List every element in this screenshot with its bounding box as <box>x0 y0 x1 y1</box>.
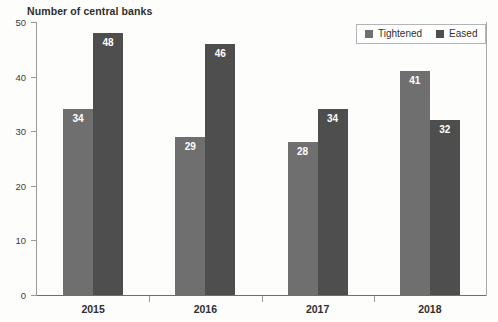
bar-value-label: 29 <box>175 141 205 152</box>
bar-value-label: 34 <box>318 113 348 124</box>
y-axis-tick <box>31 186 37 187</box>
legend-swatch-icon <box>365 30 373 38</box>
bar-value-label: 46 <box>205 48 235 59</box>
bar-value-label: 28 <box>288 146 318 157</box>
y-axis-tick <box>31 131 37 132</box>
x-axis-tick <box>374 296 375 302</box>
x-axis-tick <box>149 296 150 302</box>
bar-value-label: 34 <box>63 113 93 124</box>
bars-layer: 3448294628344132 <box>37 22 486 295</box>
legend-swatch-icon <box>436 30 444 38</box>
y-axis-label: 20 <box>15 180 26 191</box>
bar-eased-2018[interactable]: 32 <box>430 120 460 295</box>
y-axis-label: 10 <box>15 235 26 246</box>
bar-value-label: 32 <box>430 124 460 135</box>
x-axis-label-2016: 2016 <box>194 303 217 315</box>
y-axis-label: 0 <box>21 290 26 301</box>
y-axis-tick <box>31 240 37 241</box>
y-axis-tick <box>31 77 37 78</box>
bar-tightened-2015[interactable]: 34 <box>63 109 93 295</box>
x-axis-tick <box>262 296 263 302</box>
page-title: Number of central banks <box>27 5 152 17</box>
legend-label: Tightened <box>378 28 422 39</box>
y-axis-tick <box>31 22 37 23</box>
legend-entry-tightened[interactable]: Tightened <box>365 28 422 39</box>
chart-page: Number of central banks 3448294628344132… <box>0 0 498 322</box>
legend-entry-eased[interactable]: Eased <box>436 28 477 39</box>
bar-value-label: 41 <box>400 75 430 86</box>
y-axis-label: 40 <box>15 71 26 82</box>
bar-tightened-2017[interactable]: 28 <box>288 142 318 295</box>
bar-eased-2015[interactable]: 48 <box>93 33 123 295</box>
bar-tightened-2016[interactable]: 29 <box>175 137 205 295</box>
y-axis-label: 30 <box>15 126 26 137</box>
x-axis-label-2015: 2015 <box>81 303 104 315</box>
plot-right-border <box>486 22 487 296</box>
chart-legend: TightenedEased <box>356 24 486 44</box>
x-axis-label-2018: 2018 <box>418 303 441 315</box>
bar-tightened-2018[interactable]: 41 <box>400 71 430 295</box>
bar-eased-2016[interactable]: 46 <box>205 44 235 295</box>
x-axis-label-2017: 2017 <box>306 303 329 315</box>
y-axis-label: 50 <box>15 17 26 28</box>
bar-value-label: 48 <box>93 37 123 48</box>
legend-label: Eased <box>449 28 477 39</box>
y-axis-tick <box>31 295 37 296</box>
bar-eased-2017[interactable]: 34 <box>318 109 348 295</box>
